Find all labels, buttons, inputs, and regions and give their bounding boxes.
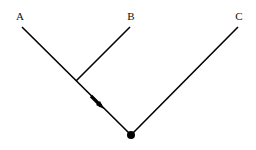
tree-diagram: A B C [0,0,256,150]
root-node [127,131,135,139]
diagram-lines [0,0,256,150]
label-a: A [16,11,24,22]
edge-b-junction [76,27,130,81]
edge-c-root [131,27,238,135]
label-c: C [235,11,242,22]
arrow-icon [91,96,104,109]
label-b: B [127,11,134,22]
